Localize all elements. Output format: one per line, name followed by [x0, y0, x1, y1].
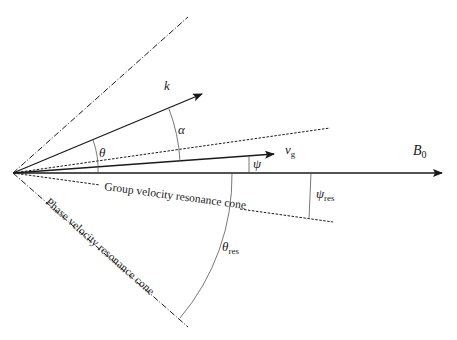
group-cone-lower-line-b	[240, 209, 333, 222]
k-label: k	[164, 78, 170, 93]
group-cone-upper-line	[13, 128, 330, 173]
theta-label: θ	[99, 145, 106, 160]
b0-label: B0	[413, 143, 427, 160]
psi-res-label: ψres	[316, 186, 335, 203]
psi-res-arc	[309, 173, 311, 219]
psi-label: ψ	[253, 156, 262, 171]
theta-res-label: θres	[222, 239, 239, 256]
alpha-label: α	[178, 122, 186, 137]
resonance-cone-diagram: k α θ ψ vg B0 ψres θres Group velocity r…	[0, 0, 457, 340]
theta-arc	[93, 140, 98, 173]
group-cone-label: Group velocity resonance cone	[104, 180, 247, 212]
group-cone-lower-line-a	[13, 173, 100, 185]
phase-cone-label: Phase velocity resonance cone	[43, 195, 157, 297]
vg-label: vg	[285, 142, 296, 159]
